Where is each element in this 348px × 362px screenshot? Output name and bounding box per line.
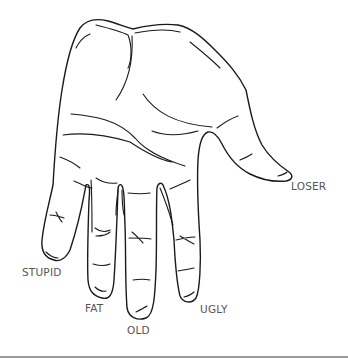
index-joint: [50, 212, 64, 222]
pinky-joint-2: [178, 268, 194, 271]
palm-line-life: [63, 134, 172, 162]
palm-line-head: [71, 114, 185, 166]
label-ring-finger: OLD: [127, 325, 150, 336]
pinky-joint: [176, 236, 195, 244]
middle-base-crease: [96, 178, 117, 183]
knuckle-crease-1: [96, 25, 131, 68]
palm-line-heart: [143, 94, 212, 127]
ring-joint-2: [133, 279, 150, 280]
ring-base-crease: [128, 193, 150, 194]
label-pinky-finger: UGLY: [200, 304, 228, 315]
label-thumb: LOSER: [291, 181, 326, 192]
hand-diagram: LOSER STUPID FAT OLD UGLY: [0, 0, 348, 362]
pinky-base-crease: [170, 180, 190, 189]
palm-line-thumb-base: [217, 116, 238, 128]
label-middle-finger: FAT: [85, 303, 103, 314]
middle-inner-line: [91, 180, 92, 232]
palm-line-mid: [152, 131, 198, 135]
knuckle-crease-5: [190, 42, 220, 68]
knuckle-crease-3: [76, 34, 90, 48]
palm-line-lower: [60, 157, 80, 168]
thumb-nail: [278, 172, 287, 176]
ring-joint: [129, 232, 151, 243]
ring-tip: [136, 306, 147, 312]
middle-joint-2: [93, 264, 110, 266]
middle-joint: [95, 228, 110, 236]
thumb-crease-1: [240, 154, 252, 160]
knuckle-crease-4: [116, 36, 132, 100]
knuckle-crease-2: [135, 30, 180, 33]
middle-tip: [95, 287, 106, 291]
label-index-finger: STUPID: [22, 267, 61, 278]
hand-outline: [42, 20, 292, 319]
pinky-tip: [184, 292, 194, 297]
bottom-divider: [0, 356, 348, 358]
